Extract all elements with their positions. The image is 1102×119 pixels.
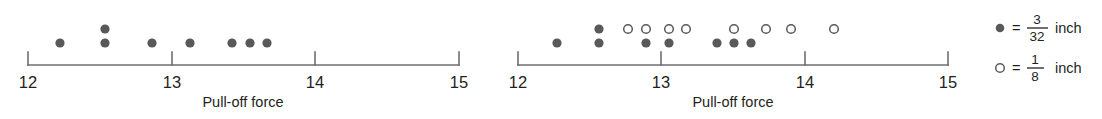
legend-filled-circle-icon [996,24,1005,33]
data-point [682,25,691,34]
figure-canvas: 12 13 14 15 Pull-off force [0,0,1102,119]
data-point [762,25,771,34]
data-point [185,38,194,47]
right-data-points-filled [552,24,755,47]
data-point [227,38,236,47]
data-point [262,38,271,47]
data-point [147,38,156,47]
data-point [594,38,603,47]
data-point [594,24,603,33]
right-data-points-open [624,25,839,34]
legend-row-open: = 1 8 inch [996,52,1082,84]
data-point [552,38,561,47]
legend-open-circle-icon [996,64,1005,73]
data-point [664,38,673,47]
right-tick-label-15: 15 [939,73,957,91]
data-point [100,24,109,33]
legend-denominator-open: 8 [1031,69,1039,84]
data-point [245,38,254,47]
data-point [100,38,109,47]
left-axis [28,52,459,65]
data-point [665,25,674,34]
left-data-points [55,24,271,47]
right-tick-label-13: 13 [652,73,670,91]
right-axis-title: Pull-off force [692,94,773,110]
left-axis-title: Pull-off force [202,94,283,110]
data-point [729,38,738,47]
data-point [642,25,651,34]
right-tick-label-12: 12 [509,73,527,91]
data-point [787,25,796,34]
legend-denominator-filled: 32 [1029,29,1044,44]
data-point [730,25,739,34]
right-tick-label-14: 14 [796,73,814,91]
right-dotplot: 12 13 14 15 [509,24,957,110]
left-axis-tick-labels: 12 13 14 15 [19,73,468,91]
left-dotplot: 12 13 14 15 Pull-off force [19,24,468,110]
legend-numerator-open: 1 [1031,52,1039,67]
legend: = 3 32 inch = 1 8 inch [996,12,1082,84]
left-tick-label-12: 12 [19,73,37,91]
data-point [830,25,839,34]
right-axis-tick-labels: 12 13 14 15 [509,73,957,91]
legend-row-filled: = 3 32 inch [996,12,1082,44]
data-point [746,38,755,47]
dotplot-figure: 12 13 14 15 Pull-off force [0,0,1102,119]
legend-numerator-filled: 3 [1033,12,1041,27]
legend-unit-filled: inch [1055,20,1082,36]
legend-equals-open: = [1012,60,1020,76]
data-point [624,25,633,34]
left-tick-label-14: 14 [306,73,324,91]
left-tick-label-13: 13 [163,73,181,91]
data-point [641,38,650,47]
data-point [712,38,721,47]
legend-unit-open: inch [1055,60,1082,76]
data-point [55,38,64,47]
left-tick-label-15: 15 [450,73,468,91]
legend-equals-filled: = [1012,20,1020,36]
right-axis [518,52,948,65]
